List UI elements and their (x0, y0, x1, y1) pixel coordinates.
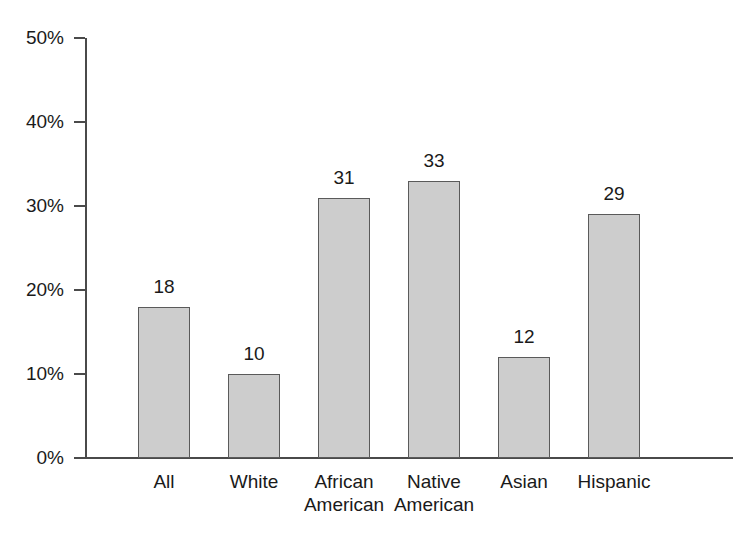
y-tick-label: 50% (26, 28, 64, 47)
bar-value-label: 31 (293, 168, 395, 187)
bar-value-label: 18 (113, 277, 215, 296)
bar (318, 198, 370, 458)
plot-area: 0%10%20%30%40%50% 181031331229 AllWhiteA… (0, 0, 740, 533)
y-tick-mark (74, 373, 85, 375)
bar (408, 181, 460, 458)
bar-value-label: 29 (563, 184, 665, 203)
y-tick-mark (74, 205, 85, 207)
bar-value-label: 12 (473, 327, 575, 346)
y-axis-line (85, 38, 87, 459)
bar-chart: 0%10%20%30%40%50% 181031331229 AllWhiteA… (0, 0, 740, 533)
category-label-line: Hispanic (559, 470, 669, 493)
bar (498, 357, 550, 458)
y-tick-label: 0% (37, 448, 64, 467)
y-tick-label: 30% (26, 196, 64, 215)
bar (588, 214, 640, 458)
bar (228, 374, 280, 458)
category-label: Hispanic (559, 470, 669, 493)
y-tick-label: 40% (26, 112, 64, 131)
y-tick-label: 10% (26, 364, 64, 383)
bar (138, 307, 190, 458)
bar-value-label: 10 (203, 344, 305, 363)
bar-value-label: 33 (383, 151, 485, 170)
category-label-line: American (379, 493, 489, 516)
y-tick-mark (74, 37, 85, 39)
y-tick-mark (74, 121, 85, 123)
y-tick-mark (74, 289, 85, 291)
y-tick-mark (74, 457, 85, 459)
y-tick-label: 20% (26, 280, 64, 299)
